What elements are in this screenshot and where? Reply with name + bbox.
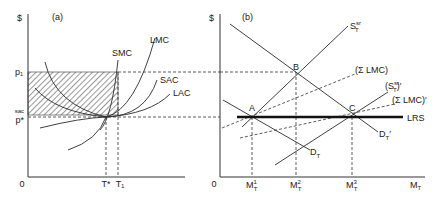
panel-b-label: (b): [242, 12, 253, 22]
m3-label: M3T: [346, 179, 358, 192]
st-label: SsrT: [350, 20, 361, 33]
y-axis-label-a: $: [17, 13, 22, 23]
figure: $ (a) 0 p₁ sac p* T* T₁ SMC LMC SAC LAC …: [0, 0, 437, 199]
t1-label: T₁: [116, 179, 125, 189]
st-prime-label: (SsrT)′: [385, 80, 402, 93]
sum-lmc-prime-line: [240, 104, 395, 138]
sum-lmc-label: (Σ LMC): [355, 65, 388, 75]
origin-b: 0: [211, 179, 216, 189]
profit-area: [28, 72, 118, 115]
lmc-label: LMC: [150, 35, 170, 45]
point-b: B: [293, 62, 299, 72]
m2-label: M2T: [290, 179, 302, 192]
origin-a: 0: [19, 179, 24, 189]
mt-axis-label: MT: [410, 180, 422, 191]
panel-b: $ (b) 0 A B C SsrT (Σ LMC) (SsrT)′ (Σ LM…: [209, 12, 427, 192]
smc-label: SMC: [112, 48, 133, 58]
point-a: A: [249, 103, 255, 113]
sum-lmc-prime-label: (Σ LMC)′: [392, 95, 427, 105]
dt-label: DT: [310, 147, 321, 159]
sac-curve-label: SAC: [160, 75, 179, 85]
st-prime-supply-line: [275, 92, 388, 165]
tstar-label: T*: [102, 179, 111, 189]
lac-label: LAC: [173, 88, 191, 98]
sac-label: sac: [15, 108, 24, 114]
dt-prime-label: DT′: [379, 129, 391, 141]
pstar-label: p*: [15, 115, 24, 125]
panel-a-label: (a): [52, 12, 63, 22]
st-supply-line: [242, 26, 348, 127]
y-axis-label-b: $: [209, 13, 214, 23]
panel-a: $ (a) 0 p₁ sac p* T* T₁ SMC LMC SAC LAC: [15, 12, 220, 189]
m1-label: M1T: [246, 179, 258, 192]
point-c: C: [349, 103, 356, 113]
lrs-label: LRS: [407, 113, 425, 123]
dt-demand-line: [223, 100, 310, 150]
p1-label: p₁: [15, 67, 23, 77]
